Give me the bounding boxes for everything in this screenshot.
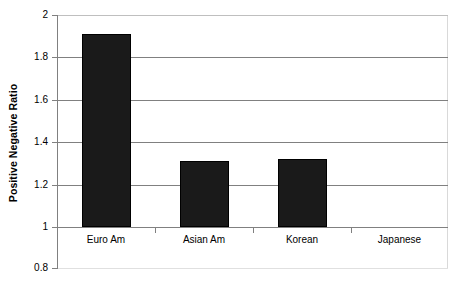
bar-chart: Positive Negative Ratio 2 1.8 1.6 1.4 1.… bbox=[0, 0, 460, 285]
x-tick-mark-2 bbox=[253, 228, 254, 233]
y-tick-label-1-8: 1.8 bbox=[8, 52, 48, 62]
y-tick-label-0-8: 0.8 bbox=[8, 263, 48, 273]
y-tick-label-1: 1 bbox=[8, 222, 48, 232]
x-tick-mark-1 bbox=[155, 228, 156, 233]
x-axis-label-korean: Korean bbox=[253, 235, 351, 245]
x-axis-label-euro-am: Euro Am bbox=[57, 235, 155, 245]
y-tick-label-1-6: 1.6 bbox=[8, 95, 48, 105]
y-tick-label-1-2: 1.2 bbox=[8, 180, 48, 190]
bar-asian-am[interactable] bbox=[180, 161, 229, 227]
x-tick-mark-3 bbox=[351, 228, 352, 233]
y-tick-label-2: 2 bbox=[8, 10, 48, 20]
x-axis-label-asian-am: Asian Am bbox=[155, 235, 253, 245]
bar-euro-am[interactable] bbox=[82, 34, 131, 227]
bar-korean[interactable] bbox=[278, 159, 327, 227]
y-tick-label-1-4: 1.4 bbox=[8, 137, 48, 147]
x-axis-label-japanese: Japanese bbox=[351, 235, 448, 245]
